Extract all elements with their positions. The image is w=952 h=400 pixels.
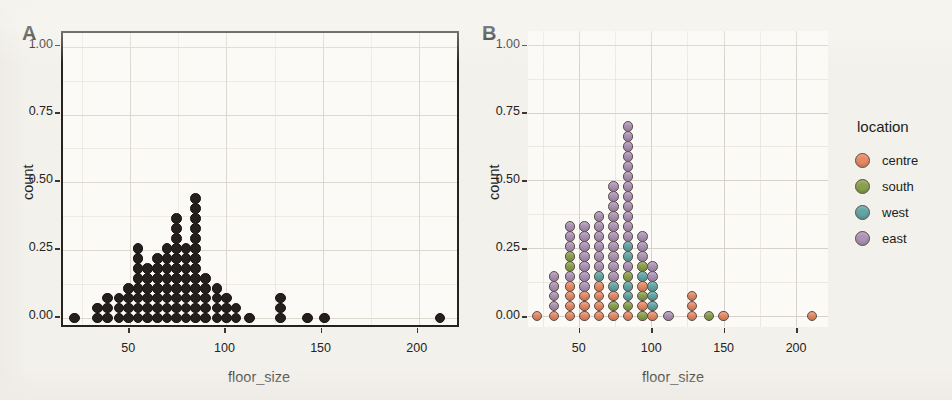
data-dot-east bbox=[608, 221, 619, 232]
data-dot-centre bbox=[579, 291, 590, 302]
data-dot-east bbox=[623, 171, 634, 182]
legend-item-west[interactable]: west bbox=[855, 199, 950, 225]
data-dot-centre bbox=[687, 291, 698, 302]
data-dot-south bbox=[637, 311, 648, 322]
data-dot-centre bbox=[637, 281, 648, 292]
gridline-horizontal-minor bbox=[528, 146, 828, 147]
data-dot-east bbox=[579, 261, 590, 272]
data-dot-west bbox=[623, 291, 634, 302]
gridline-horizontal bbox=[528, 45, 828, 46]
data-dot-south bbox=[565, 261, 576, 272]
data-dot-east bbox=[608, 251, 619, 262]
legend-items: centresouthwesteast bbox=[855, 147, 950, 251]
data-dot-centre bbox=[565, 281, 576, 292]
x-axis-tick-mark bbox=[321, 328, 323, 333]
figure-root: A count floor_size 0.000.250.500.751.005… bbox=[0, 0, 952, 400]
data-dot-west bbox=[623, 241, 634, 252]
data-dot-east bbox=[549, 281, 560, 292]
data-dot-west bbox=[623, 281, 634, 292]
data-dot-east bbox=[549, 271, 560, 282]
y-axis-tick-label: 0.75 bbox=[11, 104, 53, 118]
gridline-horizontal bbox=[63, 115, 457, 116]
gridline-horizontal bbox=[63, 250, 457, 251]
data-dot bbox=[152, 303, 163, 314]
y-axis-tick-label: 0.25 bbox=[478, 240, 520, 254]
data-dot-centre bbox=[594, 291, 605, 302]
data-dot-east bbox=[623, 181, 634, 192]
y-axis-tick-label: 0.50 bbox=[11, 172, 53, 186]
gridline-vertical bbox=[724, 31, 725, 327]
panel-a: A count floor_size 0.000.250.500.751.005… bbox=[0, 0, 478, 400]
legend-item-centre[interactable]: centre bbox=[855, 147, 950, 173]
data-dot-west bbox=[637, 271, 648, 282]
data-dot bbox=[190, 243, 201, 254]
data-dot-east bbox=[549, 301, 560, 312]
legend-label: west bbox=[882, 205, 909, 220]
data-dot-centre bbox=[549, 311, 560, 322]
gridline-horizontal bbox=[63, 47, 457, 48]
data-dot-south bbox=[623, 271, 634, 282]
data-dot-centre bbox=[687, 301, 698, 312]
data-dot bbox=[152, 313, 163, 324]
y-axis-tick-label: 1.00 bbox=[478, 37, 520, 51]
gridline-vertical-minor bbox=[543, 31, 544, 327]
y-axis-tick-mark bbox=[522, 248, 527, 250]
panel-b-plot-area bbox=[528, 31, 828, 327]
legend-swatch-east bbox=[855, 231, 870, 246]
y-axis-tick-mark bbox=[55, 180, 60, 182]
data-dot-east bbox=[623, 151, 634, 162]
x-axis-tick-label: 150 bbox=[704, 341, 744, 355]
panel-b-x-axis-title: floor_size bbox=[642, 369, 704, 385]
y-axis-tick-label: 0.00 bbox=[11, 308, 53, 322]
data-dot bbox=[152, 263, 163, 274]
legend-item-east[interactable]: east bbox=[855, 225, 950, 251]
data-dot bbox=[102, 313, 113, 324]
data-dot-east bbox=[565, 221, 576, 232]
data-dot-east bbox=[549, 291, 560, 302]
gridline-horizontal-minor bbox=[63, 284, 457, 285]
panel-a-plot-area bbox=[61, 31, 459, 327]
data-dot bbox=[302, 313, 313, 324]
data-dot-centre bbox=[608, 311, 619, 322]
data-dot-east bbox=[623, 211, 634, 222]
data-dot-east bbox=[579, 271, 590, 282]
data-dot-east bbox=[594, 211, 605, 222]
x-axis-tick-mark bbox=[651, 328, 653, 333]
data-dot-east bbox=[579, 241, 590, 252]
data-dot-south bbox=[704, 311, 715, 322]
data-dot bbox=[171, 223, 182, 234]
y-axis-tick-mark bbox=[522, 180, 527, 182]
y-axis-tick-mark bbox=[55, 112, 60, 114]
data-dot-east bbox=[565, 231, 576, 242]
data-dot-centre bbox=[579, 301, 590, 312]
data-dot bbox=[133, 243, 144, 254]
legend-swatch-south bbox=[855, 179, 870, 194]
data-dot bbox=[319, 313, 330, 324]
x-axis-tick-mark bbox=[128, 328, 130, 333]
legend-title: location bbox=[857, 118, 950, 135]
data-dot-east bbox=[637, 251, 648, 262]
data-dot-centre bbox=[532, 311, 543, 322]
data-dot bbox=[435, 313, 446, 324]
data-dot bbox=[152, 253, 163, 264]
x-axis-tick-label: 100 bbox=[631, 341, 671, 355]
data-dot-east bbox=[623, 141, 634, 152]
legend-swatch-west bbox=[855, 205, 870, 220]
data-dot-centre bbox=[647, 311, 658, 322]
gridline-horizontal bbox=[528, 113, 828, 114]
x-axis-tick-mark bbox=[724, 328, 726, 333]
data-dot-east bbox=[594, 261, 605, 272]
data-dot bbox=[244, 313, 255, 324]
gridline-vertical-minor bbox=[760, 31, 761, 327]
y-axis-tick-label: 0.50 bbox=[478, 172, 520, 186]
legend-item-south[interactable]: south bbox=[855, 173, 950, 199]
gridline-horizontal bbox=[63, 182, 457, 183]
data-dot-east bbox=[637, 231, 648, 242]
panel-a-x-axis-title: floor_size bbox=[228, 369, 290, 385]
data-dot-centre bbox=[608, 291, 619, 302]
y-axis-tick-mark bbox=[55, 316, 60, 318]
data-dot bbox=[190, 203, 201, 214]
data-dot-centre bbox=[594, 281, 605, 292]
x-axis-tick-mark bbox=[417, 328, 419, 333]
data-dot bbox=[190, 253, 201, 264]
